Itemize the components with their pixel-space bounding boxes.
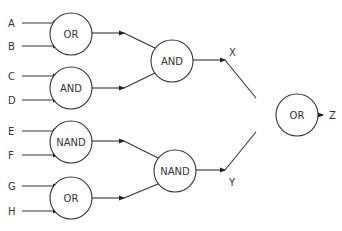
input-label-e: E [8, 126, 14, 137]
label-y: Y [228, 177, 236, 188]
input-label-b: B [8, 41, 15, 52]
gate-or-ab: OR [50, 13, 92, 55]
svg-text:AND: AND [60, 83, 82, 94]
svg-text:OR: OR [64, 29, 79, 40]
gate-or-gh: OR [50, 177, 92, 219]
gate-nand-y: NAND [154, 150, 196, 192]
label-x: X [229, 47, 236, 58]
gate-or-z: OR [276, 94, 318, 136]
input-label-c: C [8, 71, 15, 82]
input-label-h: H [8, 206, 16, 217]
svg-text:AND: AND [161, 56, 183, 67]
input-label-a: A [8, 18, 15, 29]
gate-and-cd: AND [50, 67, 92, 109]
gate-and-x: AND [151, 40, 193, 82]
svg-text:NAND: NAND [160, 166, 190, 177]
input-labels: A B C D E F G H [8, 18, 16, 217]
input-label-d: D [8, 95, 16, 106]
logic-diagram: OR AND NAND OR AND NAND OR A B C D E F G… [0, 0, 342, 231]
svg-text:OR: OR [290, 110, 305, 121]
svg-text:OR: OR [64, 193, 79, 204]
svg-text:NAND: NAND [56, 137, 86, 148]
label-z: Z [329, 110, 336, 121]
stage1-wires [92, 33, 158, 198]
input-label-g: G [8, 181, 16, 192]
gate-nand-ef: NAND [50, 121, 92, 163]
input-label-f: F [8, 150, 14, 161]
input-wires [22, 23, 58, 211]
